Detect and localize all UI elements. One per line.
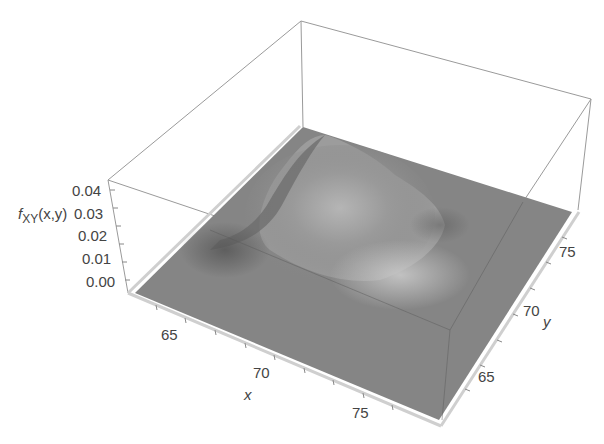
y-tick-label: 75	[559, 243, 576, 260]
y-tick-label: 70	[523, 302, 540, 319]
z-tick-label: 0.04	[72, 182, 101, 199]
z-tick-label: 0.03	[74, 205, 103, 222]
y-axis-label: y	[542, 313, 552, 330]
x-tick-label: 65	[161, 326, 178, 343]
z-tick-label: 0.01	[82, 250, 111, 267]
x-axis-label: x	[243, 386, 252, 403]
x-tick-label: 70	[253, 364, 270, 381]
density-surface	[135, 127, 572, 420]
z-tick-label: 0.02	[78, 227, 107, 244]
x-tick-label: 75	[352, 404, 369, 421]
surface-plot-3d: 0.04 0.03 0.02 0.01 0.00 fXY(x,y) 65 70 …	[0, 0, 604, 444]
z-axis-label: fXY(x,y)	[18, 205, 67, 226]
y-tick-label: 65	[478, 368, 495, 385]
z-tick-label: 0.00	[86, 273, 115, 290]
